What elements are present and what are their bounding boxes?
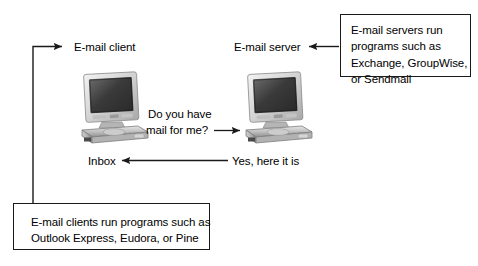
server-note-callout: E-mail servers run programs such as Exch… [340, 14, 471, 77]
client-note-callout: E-mail clients run programs such as Outl… [13, 203, 210, 250]
client-note-line-1: E-mail clients run programs such as [31, 214, 199, 230]
client-computer-illustration [76, 70, 150, 146]
server-computer-illustration [240, 70, 314, 146]
client-note-line-2: Outlook Express, Eudora, or Pine [31, 230, 199, 246]
request-label-line1: Do you have [148, 107, 211, 123]
client-callout-connector [33, 47, 62, 204]
inbox-label: Inbox [88, 154, 116, 170]
request-label-line2: mail for me? [146, 123, 208, 139]
server-note-line-1: E-mail servers run [351, 22, 460, 38]
server-note-line-2: programs such as [351, 38, 460, 54]
client-label: E-mail client [74, 40, 135, 56]
response-label: Yes, here it is [232, 154, 299, 170]
server-label: E-mail server [234, 40, 300, 56]
server-note-line-4: or Sendmail [351, 71, 460, 87]
diagram-canvas: E-mail client E-mail server Do you have … [0, 0, 478, 266]
server-note-line-3: Exchange, GroupWise, [351, 55, 460, 71]
